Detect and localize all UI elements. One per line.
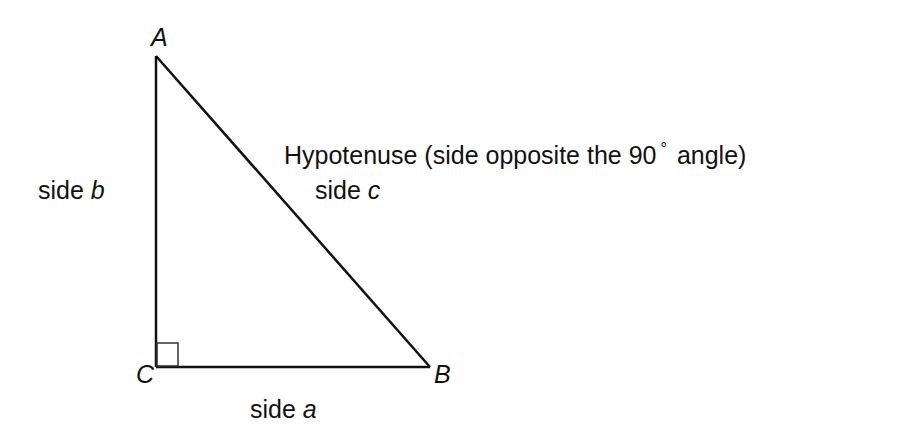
right-angle-marker: [157, 343, 178, 366]
vertex-label-a: A: [151, 25, 168, 50]
side-c-var: c: [368, 176, 381, 204]
side-b-prefix: side: [38, 176, 84, 204]
hypotenuse-line: [156, 56, 430, 367]
side-b-var: b: [91, 176, 105, 204]
side-a-label: side a: [250, 397, 317, 422]
side-c-label: side c: [315, 178, 380, 203]
degree-symbol: °: [660, 140, 666, 157]
side-b-label: side b: [38, 178, 105, 203]
vertex-label-b: B: [434, 362, 451, 387]
vertex-label-c: C: [136, 362, 154, 387]
hypotenuse-note: Hypotenuse (side opposite the 90°angle): [284, 143, 746, 168]
side-a-var: a: [303, 395, 317, 423]
hypotenuse-text: Hypotenuse (side opposite the 90: [284, 141, 656, 169]
side-a-prefix: side: [250, 395, 296, 423]
hypotenuse-text-end: angle): [677, 141, 747, 169]
side-c-prefix: side: [315, 176, 361, 204]
